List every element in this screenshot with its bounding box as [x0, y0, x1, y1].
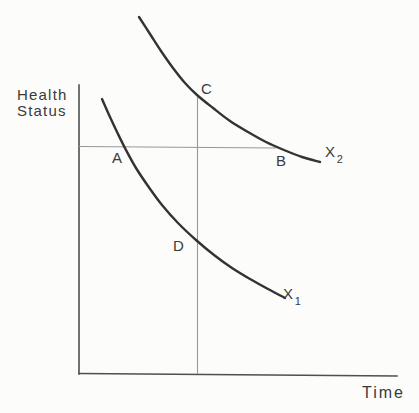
- curve-label-x1: X 1: [283, 286, 301, 302]
- diagram-canvas: [0, 0, 419, 413]
- point-label-d: D: [173, 238, 185, 254]
- y-axis-title-line2: Status: [17, 103, 68, 119]
- curve-x1: [102, 99, 285, 298]
- health-status-time-diagram: Health Status Time A B C D X 2 X 1: [0, 0, 419, 413]
- point-label-a: A: [112, 150, 123, 166]
- curve-label-x1-subscript: 1: [295, 293, 301, 309]
- y-axis-title: Health Status: [17, 87, 68, 119]
- point-label-b: B: [276, 153, 287, 169]
- curve-label-x2-base: X: [325, 144, 336, 160]
- ref-horizontal-ab: [79, 147, 276, 149]
- x-axis-title: Time: [362, 385, 405, 401]
- curve-label-x2: X 2: [325, 144, 343, 160]
- y-axis-title-line1: Health: [17, 87, 68, 103]
- curve-x2: [139, 17, 320, 162]
- curve-label-x2-subscript: 2: [337, 151, 343, 167]
- x-axis: [79, 374, 397, 377]
- curve-label-x1-base: X: [283, 286, 294, 302]
- point-label-c: C: [201, 81, 213, 97]
